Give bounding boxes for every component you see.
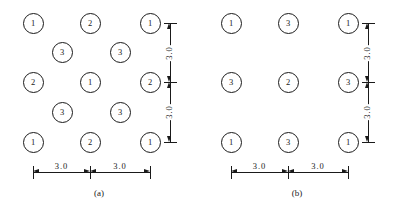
dimension-line xyxy=(231,172,288,173)
node-label: 3 xyxy=(229,78,233,87)
dimension-arrow xyxy=(167,82,171,88)
node-circle: 2 xyxy=(80,13,101,34)
dimension-tick xyxy=(150,166,151,179)
dimension-arrow xyxy=(365,23,369,29)
dimension-arrow xyxy=(167,23,171,29)
node-label: 3 xyxy=(118,108,122,117)
node-label: 1 xyxy=(88,78,92,87)
node-label: 2 xyxy=(88,138,92,147)
dimension-arrow xyxy=(288,169,294,173)
node-circle: 2 xyxy=(80,132,101,153)
dimension-arrow xyxy=(144,169,150,173)
node-circle: 1 xyxy=(80,72,101,93)
node-label: 1 xyxy=(31,138,35,147)
node-circle: 1 xyxy=(221,13,242,34)
node-circle: 1 xyxy=(23,132,44,153)
node-label: 2 xyxy=(31,78,35,87)
dimension-arrow xyxy=(365,136,369,142)
node-label: 3 xyxy=(60,48,64,57)
dimension-tick xyxy=(362,142,375,143)
node-circle: 1 xyxy=(221,132,242,153)
node-label: 1 xyxy=(346,138,350,147)
node-label: 3 xyxy=(346,78,350,87)
diagram-panel-b: 1313231313.03.03.03.0(b) xyxy=(198,0,396,210)
node-circle: 3 xyxy=(110,102,131,123)
dimension-line xyxy=(288,172,348,173)
node-circle: 2 xyxy=(278,72,299,93)
dimension-label: 3.0 xyxy=(251,161,267,171)
panel-caption: (a) xyxy=(0,188,198,198)
dimension-label: 3.0 xyxy=(362,104,372,120)
node-label: 1 xyxy=(346,19,350,28)
node-label: 2 xyxy=(286,78,290,87)
node-circle: 1 xyxy=(140,13,161,34)
dimension-tick xyxy=(164,142,177,143)
node-circle: 3 xyxy=(278,132,299,153)
dimension-arrow xyxy=(342,169,348,173)
node-circle: 1 xyxy=(140,132,161,153)
node-circle: 1 xyxy=(338,13,359,34)
dimension-line xyxy=(90,172,150,173)
node-circle: 1 xyxy=(23,13,44,34)
node-label: 2 xyxy=(88,19,92,28)
node-label: 2 xyxy=(148,78,152,87)
dimension-arrow xyxy=(365,82,369,88)
node-circle: 2 xyxy=(140,72,161,93)
figure-root: 12133212331213.03.03.03.0(a) 1313231313.… xyxy=(0,0,396,210)
node-circle: 2 xyxy=(23,72,44,93)
node-label: 1 xyxy=(229,19,233,28)
dimension-arrow xyxy=(90,169,96,173)
diagram-panel-a: 12133212331213.03.03.03.0(a) xyxy=(0,0,198,210)
node-label: 3 xyxy=(286,19,290,28)
node-circle: 3 xyxy=(278,13,299,34)
dimension-line xyxy=(33,172,90,173)
node-label: 1 xyxy=(229,138,233,147)
dimension-arrow xyxy=(167,136,171,142)
node-label: 3 xyxy=(118,48,122,57)
node-circle: 1 xyxy=(338,132,359,153)
dimension-label: 3.0 xyxy=(362,44,372,60)
node-label: 3 xyxy=(286,138,290,147)
node-label: 1 xyxy=(148,19,152,28)
node-label: 1 xyxy=(148,138,152,147)
node-circle: 3 xyxy=(110,42,131,63)
dimension-tick xyxy=(348,166,349,179)
node-circle: 3 xyxy=(221,72,242,93)
dimension-label: 3.0 xyxy=(164,44,174,60)
dimension-arrow xyxy=(33,169,39,173)
node-circle: 3 xyxy=(338,72,359,93)
node-label: 1 xyxy=(31,19,35,28)
dimension-label: 3.0 xyxy=(164,104,174,120)
panel-caption: (b) xyxy=(198,188,396,198)
node-circle: 3 xyxy=(52,102,73,123)
dimension-label: 3.0 xyxy=(310,161,326,171)
dimension-label: 3.0 xyxy=(53,161,69,171)
node-circle: 3 xyxy=(52,42,73,63)
node-label: 3 xyxy=(60,108,64,117)
dimension-label: 3.0 xyxy=(112,161,128,171)
dimension-arrow xyxy=(231,169,237,173)
